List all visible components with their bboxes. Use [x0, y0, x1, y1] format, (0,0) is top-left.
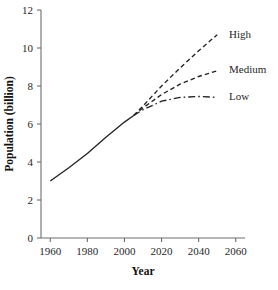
series-line-medium [134, 71, 217, 116]
x-tick-label: 2060 [225, 245, 248, 257]
population-projection-chart: 024681012 196019802000202020402060 Year … [0, 0, 278, 290]
x-tick-group: 196019802000202020402060 [39, 238, 247, 257]
chart-canvas: 024681012 196019802000202020402060 Year … [0, 0, 278, 290]
series-path-group [50, 35, 217, 181]
y-tick-label: 10 [22, 42, 34, 54]
series-line-historical [50, 115, 133, 181]
y-tick-group: 024681012 [22, 4, 41, 244]
y-tick-label: 2 [28, 194, 34, 206]
series-label-medium: Medium [229, 63, 267, 75]
x-tick-label: 2040 [188, 245, 211, 257]
y-tick-label: 4 [28, 156, 34, 168]
x-tick-label: 2000 [113, 245, 136, 257]
caption-sliver [0, 281, 278, 290]
x-tick-label: 1980 [76, 245, 99, 257]
series-label-high: High [229, 28, 252, 40]
y-tick-label: 6 [28, 118, 34, 130]
y-tick-label: 12 [22, 4, 33, 16]
series-line-high [134, 35, 217, 116]
y-tick-label: 0 [28, 232, 34, 244]
x-tick-label: 2020 [151, 245, 174, 257]
y-tick-label: 8 [28, 80, 34, 92]
y-axis-title: Population (billion) [3, 76, 16, 172]
series-label-low: Low [229, 90, 249, 102]
x-tick-label: 1960 [39, 245, 62, 257]
x-axis-title: Year [132, 265, 155, 277]
